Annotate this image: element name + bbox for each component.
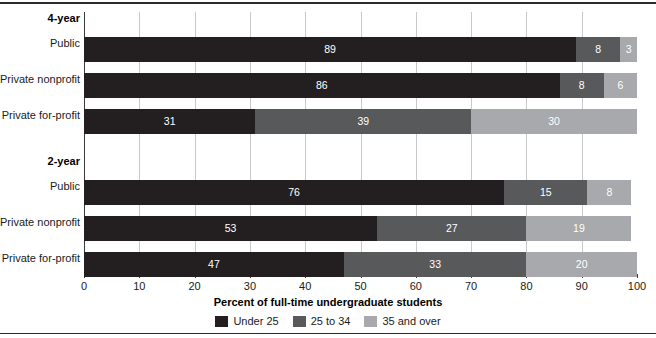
bar-2year-public[interactable]: 76 15 8 xyxy=(84,180,637,205)
row-label-2year-private-forprofit: Private for-profit xyxy=(0,252,80,264)
value-label: 76 xyxy=(288,187,300,198)
segment-35andover[interactable]: 8 xyxy=(587,180,631,205)
legend-swatch-icon xyxy=(364,316,377,327)
xtick-label-60: 60 xyxy=(410,280,422,292)
value-label: 3 xyxy=(626,44,632,55)
row-label-2year-public: Public xyxy=(0,180,80,192)
value-label: 86 xyxy=(316,80,328,91)
plot-area: 0 10 20 30 40 50 60 70 80 90 100 89 8 3 … xyxy=(84,12,637,274)
value-label: 31 xyxy=(164,116,176,127)
value-label: 8 xyxy=(579,80,585,91)
value-label: 20 xyxy=(576,259,588,270)
xtick-label-100: 100 xyxy=(628,280,646,292)
segment-35andover[interactable]: 20 xyxy=(526,252,637,277)
legend-label: Under 25 xyxy=(233,315,278,327)
xtick-100 xyxy=(637,274,638,278)
row-label-2year-private-nonprofit: Private nonprofit xyxy=(0,216,80,228)
value-label: 15 xyxy=(540,187,552,198)
value-label: 27 xyxy=(446,223,458,234)
row-label-4year-public: Public xyxy=(0,37,80,49)
value-label: 47 xyxy=(208,259,220,270)
segment-25to34[interactable]: 27 xyxy=(377,216,526,241)
bar-4year-private-nonprofit[interactable]: 86 8 6 xyxy=(84,73,637,98)
row-label-4year-private-forprofit: Private for-profit xyxy=(0,109,80,121)
bar-4year-private-forprofit[interactable]: 31 39 30 xyxy=(84,109,637,134)
bar-2year-private-forprofit[interactable]: 47 33 20 xyxy=(84,252,637,277)
value-label: 39 xyxy=(357,116,369,127)
stacked-bar-chart-figure: 4-year Public Private nonprofit Private … xyxy=(0,0,656,338)
segment-under25[interactable]: 31 xyxy=(84,109,255,134)
x-axis-title: Percent of full-time undergraduate stude… xyxy=(0,296,656,308)
segment-under25[interactable]: 86 xyxy=(84,73,560,98)
value-label: 30 xyxy=(548,116,560,127)
xtick-label-90: 90 xyxy=(576,280,588,292)
xtick-label-10: 10 xyxy=(133,280,145,292)
segment-25to34[interactable]: 33 xyxy=(344,252,526,277)
legend-swatch-icon xyxy=(215,316,228,327)
xtick-label-40: 40 xyxy=(299,280,311,292)
group-label-2year: 2-year xyxy=(0,155,80,167)
xtick-label-20: 20 xyxy=(188,280,200,292)
segment-35andover[interactable]: 19 xyxy=(526,216,631,241)
legend-item-under25[interactable]: Under 25 xyxy=(215,315,278,327)
segment-25to34[interactable]: 15 xyxy=(504,180,587,205)
xtick-label-0: 0 xyxy=(81,280,87,292)
segment-25to34[interactable]: 39 xyxy=(255,109,471,134)
legend-label: 25 to 34 xyxy=(311,315,351,327)
segment-35andover[interactable]: 3 xyxy=(620,37,637,62)
segment-under25[interactable]: 89 xyxy=(84,37,576,62)
segment-35andover[interactable]: 6 xyxy=(604,73,637,98)
segment-25to34[interactable]: 8 xyxy=(560,73,604,98)
value-label: 6 xyxy=(617,80,623,91)
value-label: 53 xyxy=(225,223,237,234)
segment-35andover[interactable]: 30 xyxy=(471,109,637,134)
group-label-4year: 4-year xyxy=(0,12,80,24)
xtick-label-70: 70 xyxy=(465,280,477,292)
value-label: 19 xyxy=(573,223,585,234)
value-label: 89 xyxy=(324,44,336,55)
row-label-4year-private-nonprofit: Private nonprofit xyxy=(0,73,80,85)
value-label: 33 xyxy=(429,259,441,270)
top-divider-rule xyxy=(0,2,656,4)
segment-25to34[interactable]: 8 xyxy=(576,37,620,62)
legend-label: 35 and over xyxy=(382,315,440,327)
bar-2year-private-nonprofit[interactable]: 53 27 19 xyxy=(84,216,637,241)
value-label: 8 xyxy=(595,44,601,55)
value-label: 8 xyxy=(606,187,612,198)
xtick-label-30: 30 xyxy=(244,280,256,292)
segment-under25[interactable]: 53 xyxy=(84,216,377,241)
segment-under25[interactable]: 76 xyxy=(84,180,504,205)
xtick-label-50: 50 xyxy=(354,280,366,292)
category-label-column: 4-year Public Private nonprofit Private … xyxy=(0,0,80,338)
xtick-label-80: 80 xyxy=(520,280,532,292)
legend-swatch-icon xyxy=(293,316,306,327)
bar-4year-public[interactable]: 89 8 3 xyxy=(84,37,637,62)
segment-under25[interactable]: 47 xyxy=(84,252,344,277)
legend-item-25to34[interactable]: 25 to 34 xyxy=(293,315,351,327)
bottom-divider-rule xyxy=(0,333,656,334)
legend-item-35andover[interactable]: 35 and over xyxy=(364,315,440,327)
legend: Under 25 25 to 34 35 and over xyxy=(0,315,656,327)
